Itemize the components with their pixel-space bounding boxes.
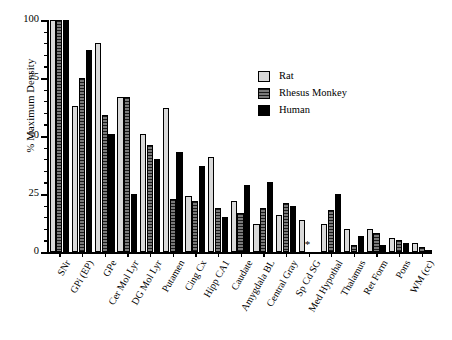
x-tick-label: Pons	[393, 258, 412, 280]
bar	[237, 213, 243, 252]
legend-item: Rhesus Monkey	[258, 85, 347, 102]
bar	[163, 108, 169, 252]
y-tick-minor	[44, 229, 48, 230]
y-tick-major	[41, 136, 47, 138]
bar	[283, 203, 289, 252]
bar	[185, 196, 191, 252]
bar	[124, 97, 130, 252]
x-tick	[422, 252, 423, 257]
bar	[154, 159, 160, 252]
y-tick-label: 100	[5, 14, 39, 25]
bar	[192, 201, 198, 252]
bar	[267, 182, 273, 252]
bar	[290, 206, 296, 252]
bar	[86, 50, 92, 252]
y-tick-label: 75	[5, 72, 39, 83]
bar	[102, 115, 108, 252]
bar	[328, 210, 334, 252]
bar	[215, 208, 221, 252]
bar	[208, 157, 214, 252]
missing-data-asterisk: *	[304, 239, 310, 250]
y-tick-minor	[44, 113, 48, 114]
y-tick-major	[41, 78, 47, 80]
bar	[373, 233, 379, 252]
x-tick	[195, 252, 196, 257]
x-tick	[263, 252, 264, 257]
x-tick-label: GPe	[100, 258, 118, 278]
y-axis-title: % Maximum Density	[25, 6, 36, 206]
legend-label: Rhesus Monkey	[279, 88, 347, 99]
bar	[389, 238, 395, 252]
bar	[344, 229, 350, 252]
y-tick-minor	[44, 32, 48, 33]
y-tick-minor	[44, 148, 48, 149]
y-tick-minor	[44, 159, 48, 160]
bar	[79, 78, 85, 252]
bar	[419, 247, 425, 252]
y-tick-minor	[44, 206, 48, 207]
bar	[412, 243, 418, 252]
y-tick-minor	[44, 171, 48, 172]
legend: RatRhesus MonkeyHuman	[258, 68, 347, 119]
bar	[72, 106, 78, 252]
y-tick-minor	[44, 55, 48, 56]
legend-swatch-icon	[258, 71, 270, 82]
y-tick-minor	[44, 66, 48, 67]
bar	[176, 152, 182, 252]
bar	[199, 166, 205, 252]
bar	[367, 229, 373, 252]
x-tick	[286, 252, 287, 257]
bar	[276, 215, 282, 252]
legend-swatch-icon	[258, 105, 270, 116]
bar	[260, 208, 266, 252]
x-tick	[105, 252, 106, 257]
y-tick-minor	[44, 43, 48, 44]
bar	[222, 217, 228, 252]
x-tick	[241, 252, 242, 257]
bar	[56, 20, 62, 252]
y-tick-minor	[44, 240, 48, 241]
y-tick-minor	[44, 217, 48, 218]
bar	[50, 20, 56, 252]
legend-item: Rat	[258, 68, 347, 85]
bar	[253, 224, 259, 252]
bar	[170, 199, 176, 252]
x-tick	[331, 252, 332, 257]
y-tick-label: 25	[5, 188, 39, 199]
legend-label: Human	[279, 105, 310, 116]
y-axis-line	[47, 20, 49, 252]
x-tick	[309, 252, 310, 257]
bar	[140, 134, 146, 252]
plot-area: 0255075100 * SNrGPi (EP)GPeCer Mol LyrDG…	[47, 20, 432, 252]
y-tick-minor	[44, 90, 48, 91]
y-tick-minor	[44, 124, 48, 125]
x-tick	[354, 252, 355, 257]
bar	[380, 245, 386, 252]
y-tick-minor	[44, 101, 48, 102]
y-tick-minor	[44, 182, 48, 183]
x-tick	[218, 252, 219, 257]
bar	[425, 250, 431, 252]
x-tick-label: SNr	[55, 258, 73, 277]
bar	[351, 245, 357, 252]
legend-label: Rat	[279, 71, 294, 82]
bar	[396, 240, 402, 252]
bar	[403, 243, 409, 252]
y-tick-major	[41, 252, 47, 254]
x-tick	[399, 252, 400, 257]
bar	[335, 194, 341, 252]
bar	[358, 236, 364, 252]
bar	[63, 20, 69, 252]
x-tick	[376, 252, 377, 257]
bar-chart-figure: % Maximum Density 0255075100 * SNrGPi (E…	[0, 0, 452, 340]
bar	[147, 145, 153, 252]
x-tick	[173, 252, 174, 257]
bar	[244, 185, 250, 252]
bar	[231, 201, 237, 252]
x-tick	[59, 252, 60, 257]
bar	[321, 224, 327, 252]
x-tick	[150, 252, 151, 257]
bar	[131, 194, 137, 252]
x-tick	[82, 252, 83, 257]
legend-item: Human	[258, 102, 347, 119]
